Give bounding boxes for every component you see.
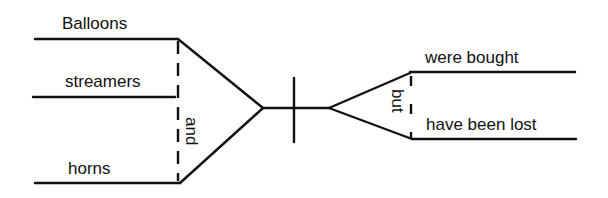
subject-label-balloons: Balloons bbox=[62, 15, 127, 32]
conjunction-label-and: and bbox=[183, 117, 200, 145]
subject-label-streamers: streamers bbox=[65, 73, 141, 90]
subject-label-horns: horns bbox=[68, 160, 111, 177]
conjunction-label-but: but bbox=[389, 89, 406, 113]
predicate-label-have-been-lost: have been lost bbox=[426, 116, 537, 133]
fork-upper-left bbox=[178, 39, 263, 108]
predicate-label-were-bought: were bought bbox=[425, 49, 519, 66]
